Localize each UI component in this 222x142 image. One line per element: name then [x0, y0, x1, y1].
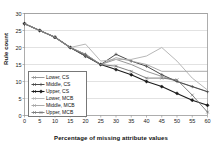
legend-label: Upper, MCB	[46, 109, 73, 116]
legend-item: Middle, MCB	[31, 102, 85, 109]
legend-marker-line	[31, 74, 45, 81]
legend-label: Middle, CS	[46, 81, 70, 88]
svg-text:10: 10	[15, 79, 21, 85]
chart-x-tick-labels: 051015202530354045505560	[23, 116, 211, 124]
chart-figure: 051015202530354045505560 051015202530 Ru…	[0, 0, 222, 142]
legend-item: Upper, MCB	[31, 109, 85, 116]
svg-text:25: 25	[15, 28, 21, 34]
legend-marker-cross	[31, 109, 45, 116]
svg-text:30: 30	[113, 118, 119, 124]
svg-text:40: 40	[143, 118, 149, 124]
svg-text:55: 55	[189, 118, 195, 124]
legend-marker-line	[31, 95, 45, 102]
svg-text:35: 35	[128, 118, 134, 124]
legend-item: Lower, CS	[31, 74, 85, 81]
legend-marker-line	[31, 102, 45, 109]
svg-text:20: 20	[82, 118, 88, 124]
svg-text:50: 50	[174, 118, 180, 124]
legend-label: Lower, CS	[46, 74, 69, 81]
svg-text:45: 45	[159, 118, 165, 124]
svg-text:5: 5	[38, 118, 41, 124]
svg-text:0: 0	[18, 113, 21, 119]
svg-text:25: 25	[98, 118, 104, 124]
svg-text:0: 0	[23, 118, 26, 124]
svg-text:30: 30	[15, 11, 21, 17]
x-axis-title: Percentage of missing attribute values	[0, 135, 222, 141]
svg-text:15: 15	[15, 62, 21, 68]
legend-item: Middle, CS	[31, 81, 85, 88]
svg-text:10: 10	[52, 118, 58, 124]
legend-item: Lower, MCB	[31, 95, 85, 102]
legend-marker-diamond	[31, 88, 45, 95]
svg-text:20: 20	[15, 45, 21, 51]
legend-label: Middle, MCB	[46, 102, 75, 109]
legend-marker-plus	[31, 81, 45, 88]
svg-text:5: 5	[18, 96, 21, 102]
svg-text:60: 60	[204, 118, 210, 124]
legend-item: Upper, CS	[31, 88, 85, 95]
chart-y-tick-labels: 051015202530	[15, 11, 24, 119]
chart-legend: Lower, CSMiddle, CSUpper, CSLower, MCBMi…	[28, 71, 87, 117]
legend-label: Lower, MCB	[46, 95, 73, 102]
legend-label: Upper, CS	[46, 88, 69, 95]
y-axis-title: Rule count	[3, 19, 9, 79]
svg-text:15: 15	[67, 118, 73, 124]
